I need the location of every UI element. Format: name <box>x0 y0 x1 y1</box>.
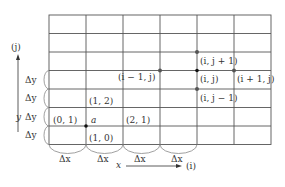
delta-y-label: Δy <box>25 75 37 85</box>
node-label-i-jplus1: (i, j + 1) <box>200 56 237 66</box>
arrow-up-icon <box>16 54 20 60</box>
node-label-1-0: (1, 0) <box>89 133 113 143</box>
node-label-0-1: (0, 1) <box>53 115 77 125</box>
node-i-jminus1-marker <box>195 87 199 91</box>
point-a-label: a <box>91 115 96 125</box>
delta-y-label: Δy <box>25 93 37 103</box>
y-variable-label: y <box>15 112 22 122</box>
x-variable-label: x <box>116 160 121 170</box>
delta-y-arcs <box>44 71 49 145</box>
node-iplus1-j-marker <box>232 69 236 73</box>
delta-x-arcs <box>49 145 197 154</box>
node-label-i-jminus1: (i, j − 1) <box>200 93 237 103</box>
node-i-j-marker <box>195 69 199 73</box>
delta-x-label: Δx <box>134 154 146 164</box>
delta-y-label: Δy <box>25 130 37 140</box>
j-axis-label: (j) <box>11 42 21 52</box>
point-a-marker <box>84 124 88 128</box>
node-label-iminus1-j: (i − 1, j) <box>118 72 155 82</box>
node-label-2-1: (2, 1) <box>126 115 150 125</box>
i-axis-label: (i) <box>186 161 196 171</box>
delta-x-label: Δx <box>97 154 109 164</box>
node-iminus1-j-marker <box>158 69 162 73</box>
node-label-i-j: (i, j) <box>200 74 218 84</box>
i-axis: (i) x <box>116 160 196 171</box>
delta-x-label: Δx <box>171 154 183 164</box>
delta-y-label: Δy <box>25 112 37 122</box>
node-label-1-2: (1, 2) <box>89 96 113 106</box>
node-i-jplus1-marker <box>195 50 199 54</box>
finite-difference-grid-diagram: (j) (i) x Δy Δy y Δy Δy Δx Δx Δx Δx (0, … <box>0 0 285 187</box>
node-label-iplus1-j: (i + 1, j) <box>237 74 274 84</box>
arrow-right-icon <box>176 164 182 168</box>
delta-x-label: Δx <box>59 154 71 164</box>
